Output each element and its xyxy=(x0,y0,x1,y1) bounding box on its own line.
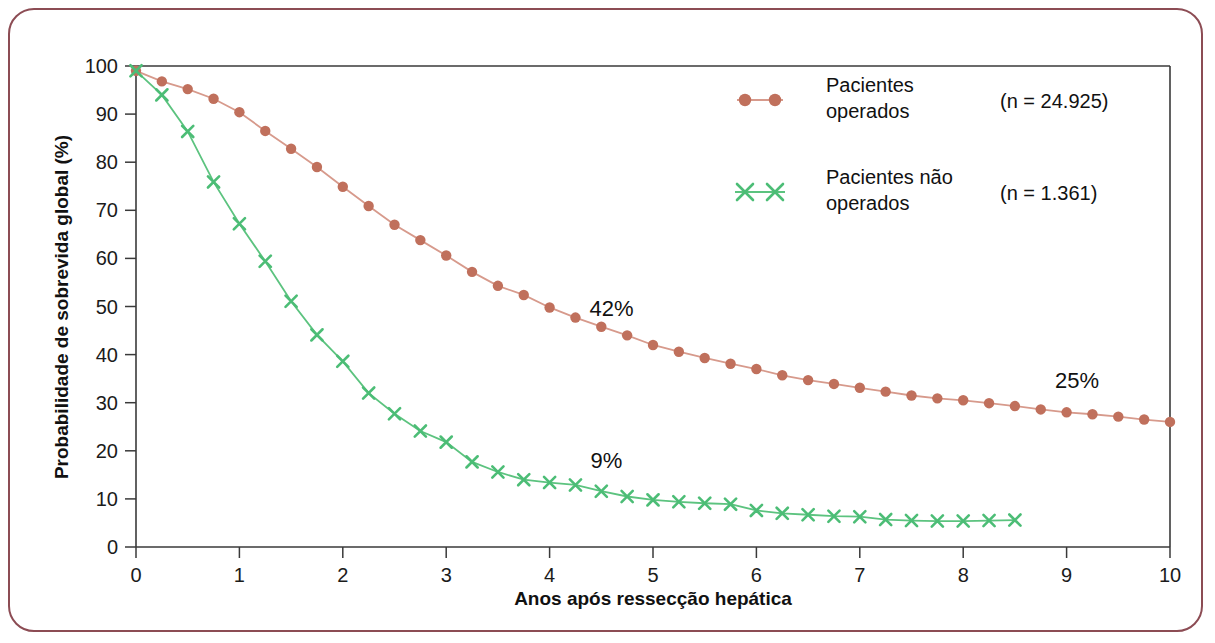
data-point-marker xyxy=(725,359,735,369)
data-point-marker xyxy=(777,370,787,380)
data-point-marker xyxy=(932,393,942,403)
data-point-marker xyxy=(492,466,503,477)
data-point-marker xyxy=(493,281,503,291)
y-tick-label: 100 xyxy=(85,55,118,77)
data-point-marker xyxy=(234,107,244,117)
y-axis-title: Probabilidade de sobrevida global (%) xyxy=(51,135,72,479)
annotation-42-percent: 42% xyxy=(590,296,634,321)
x-tick-label: 6 xyxy=(751,564,762,586)
data-point-marker xyxy=(1036,404,1046,414)
data-point-marker xyxy=(286,296,297,307)
x-axis-ticks: 012345678910 xyxy=(130,547,1181,586)
x-tick-label: 7 xyxy=(854,564,865,586)
x-tick-label: 3 xyxy=(441,564,452,586)
data-point-marker xyxy=(363,201,373,211)
data-point-marker xyxy=(415,235,425,245)
data-point-marker xyxy=(183,84,193,94)
data-point-marker xyxy=(803,375,813,385)
x-tick-label: 9 xyxy=(1061,564,1072,586)
x-tick-label: 1 xyxy=(234,564,245,586)
annotation-9-percent: 9% xyxy=(591,448,623,473)
data-point-marker xyxy=(1165,417,1175,427)
data-point-marker xyxy=(338,182,348,192)
y-tick-label: 80 xyxy=(96,151,118,173)
data-point-marker xyxy=(260,126,270,136)
data-point-marker xyxy=(363,387,374,398)
data-point-marker xyxy=(1113,411,1123,421)
data-point-marker xyxy=(1087,409,1097,419)
legend-sample-size: (n = 1.361) xyxy=(1000,182,1097,204)
x-tick-label: 4 xyxy=(544,564,555,586)
data-point-marker xyxy=(544,302,554,312)
legend-marker-circle-icon xyxy=(769,94,781,106)
data-annotations-layer: 42%25%9% xyxy=(590,296,1099,473)
x-tick-label: 10 xyxy=(1159,564,1181,586)
y-tick-label: 20 xyxy=(96,440,118,462)
data-point-marker xyxy=(1061,407,1071,417)
data-point-marker xyxy=(156,89,167,100)
y-tick-label: 90 xyxy=(96,103,118,125)
x-axis-title: Anos após ressecção hepática xyxy=(514,588,792,609)
data-point-marker xyxy=(208,94,218,104)
data-point-marker xyxy=(441,437,452,448)
legend-marker-circle-icon xyxy=(739,94,751,106)
y-axis-ticks: 0102030405060708090100 xyxy=(85,55,136,558)
y-tick-label: 40 xyxy=(96,344,118,366)
series-line xyxy=(136,71,1170,422)
data-point-marker xyxy=(337,356,348,367)
data-series-layer xyxy=(130,65,1175,526)
data-point-marker xyxy=(182,126,193,137)
y-tick-label: 10 xyxy=(96,488,118,510)
data-point-marker xyxy=(984,398,994,408)
data-point-marker xyxy=(674,347,684,357)
y-tick-label: 70 xyxy=(96,199,118,221)
x-tick-label: 0 xyxy=(130,564,141,586)
data-point-marker xyxy=(260,256,271,267)
x-tick-label: 2 xyxy=(337,564,348,586)
data-point-marker xyxy=(389,408,400,419)
data-point-marker xyxy=(596,322,606,332)
data-point-marker xyxy=(958,395,968,405)
data-point-marker xyxy=(466,456,477,467)
data-point-marker xyxy=(519,290,529,300)
x-tick-label: 5 xyxy=(647,564,658,586)
data-point-marker xyxy=(208,176,219,187)
data-point-marker xyxy=(1139,414,1149,424)
survival-curve-plot: 0102030405060708090100 012345678910 Prob… xyxy=(0,0,1215,643)
chart-legend: Pacientesoperados(n = 24.925)Pacientes n… xyxy=(735,74,1108,214)
data-point-marker xyxy=(751,364,761,374)
legend-sample-size: (n = 24.925) xyxy=(1000,90,1108,112)
survival-chart-figure: 0102030405060708090100 012345678910 Prob… xyxy=(0,0,1215,643)
data-point-marker xyxy=(829,379,839,389)
data-point-marker xyxy=(1010,401,1020,411)
data-point-marker xyxy=(622,330,632,340)
series-operated xyxy=(131,66,1175,428)
data-point-marker xyxy=(441,250,451,260)
data-point-marker xyxy=(906,390,916,400)
data-point-marker xyxy=(855,383,865,393)
data-point-marker xyxy=(415,425,426,436)
legend-label-line2: operados xyxy=(826,100,909,122)
data-point-marker xyxy=(880,386,890,396)
data-point-marker xyxy=(570,312,580,322)
data-point-marker xyxy=(286,144,296,154)
data-point-marker xyxy=(312,162,322,172)
data-point-marker xyxy=(234,218,245,229)
legend-entry-1: Pacientesoperados(n = 24.925) xyxy=(737,74,1108,122)
y-tick-label: 0 xyxy=(107,536,118,558)
data-point-marker xyxy=(389,220,399,230)
figure-page: 0102030405060708090100 012345678910 Prob… xyxy=(0,0,1215,643)
series-line xyxy=(136,71,1015,521)
data-point-marker xyxy=(700,353,710,363)
y-tick-label: 60 xyxy=(96,247,118,269)
axes-group xyxy=(136,66,1170,547)
data-point-marker xyxy=(467,267,477,277)
y-tick-label: 50 xyxy=(96,296,118,318)
legend-label-line2: operados xyxy=(826,192,909,214)
legend-entry-2: Pacientes nãooperados(n = 1.361) xyxy=(735,166,1097,214)
legend-label-line1: Pacientes não xyxy=(826,166,953,188)
legend-label-line1: Pacientes xyxy=(826,74,914,96)
data-point-marker xyxy=(648,340,658,350)
data-point-marker xyxy=(157,76,167,86)
x-tick-label: 8 xyxy=(958,564,969,586)
